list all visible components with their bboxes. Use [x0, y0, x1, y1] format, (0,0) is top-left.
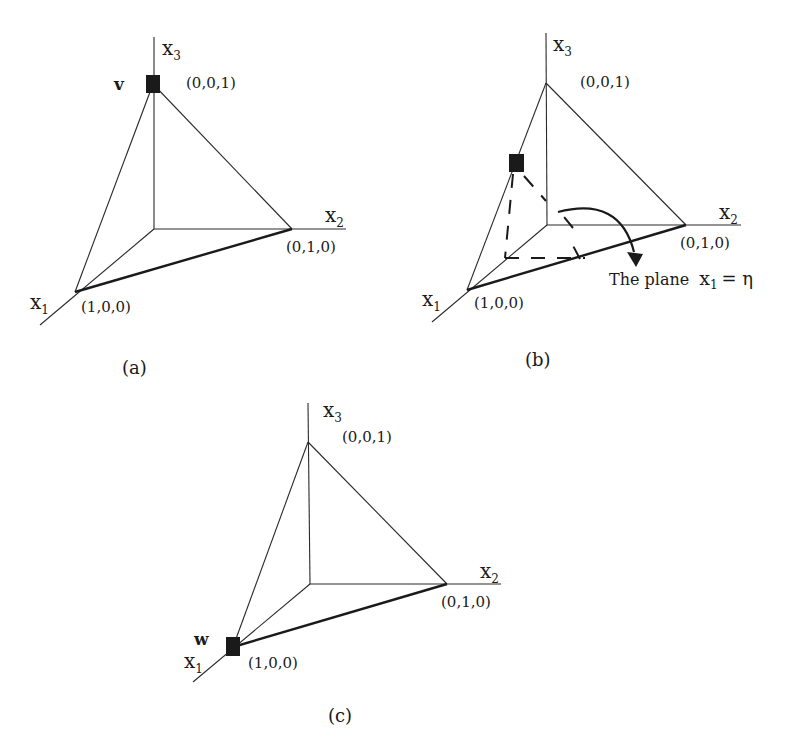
x1-label: x1: [422, 287, 441, 314]
x1-label: x1: [30, 290, 49, 317]
edge-e1-e2: [75, 229, 292, 292]
vertex-e3-label: (0,0,1): [580, 73, 630, 91]
caption-c: (c): [328, 705, 352, 726]
x2-label: x2: [325, 203, 344, 230]
plane-annotation: The planex1= η: [609, 267, 753, 292]
point-marker: [509, 154, 524, 172]
vertex-e1-label: (1,0,0): [81, 298, 131, 316]
x3-axis: [308, 403, 310, 584]
x3-label: x3: [162, 36, 181, 63]
edge-e3-e2: [308, 442, 447, 584]
vertex-e3-label: (0,0,1): [186, 74, 236, 92]
caption-b: (b): [525, 349, 551, 370]
curved-arrow: [558, 208, 634, 252]
panel-b: x3 x2 x1 (0,0,1) (0,1,0) (1,0,0) The pla…: [422, 32, 753, 370]
point-v-marker: [146, 75, 160, 93]
vertex-e2-label: (0,1,0): [680, 234, 730, 252]
x2-label: x2: [719, 200, 738, 227]
edge-e1-e2: [233, 584, 447, 647]
vertex-e1-label: (1,0,0): [474, 294, 524, 312]
vertex-e2-label: (0,1,0): [441, 593, 491, 611]
x2-label: x2: [480, 559, 499, 586]
x3-label: x3: [323, 398, 342, 425]
edge-e3-e2: [546, 83, 686, 225]
plane-dashed-edge: [560, 212, 573, 228]
x3-label: x3: [553, 32, 572, 59]
panel-a: v x3 x2 x1 (0,0,1) (0,1,0) (1,0,0) (a): [30, 36, 346, 378]
x1-label: x1: [184, 649, 203, 676]
panel-c: w x3 x2 x1 (0,0,1) (0,1,0) (1,0,0) (c): [184, 398, 501, 726]
x3-axis: [546, 33, 547, 225]
vertex-e2-label: (0,1,0): [286, 238, 336, 256]
vertex-e3-label: (0,0,1): [342, 428, 392, 446]
caption-a: (a): [122, 357, 147, 378]
edge-e3-e2: [153, 84, 292, 229]
point-v-label: v: [113, 74, 125, 94]
point-w-label: w: [193, 629, 209, 649]
arrow-head-icon: [627, 252, 643, 267]
edge-e3-e1: [75, 84, 153, 292]
point-w-marker: [226, 637, 240, 656]
vertex-e1-label: (1,0,0): [248, 654, 298, 672]
simplex-figure: v x3 x2 x1 (0,0,1) (0,1,0) (1,0,0) (a) x…: [0, 0, 801, 746]
plane-dashed-edge: [524, 176, 546, 201]
plane-dashed-edge: [570, 240, 580, 259]
edge-e3-e1: [233, 442, 308, 647]
